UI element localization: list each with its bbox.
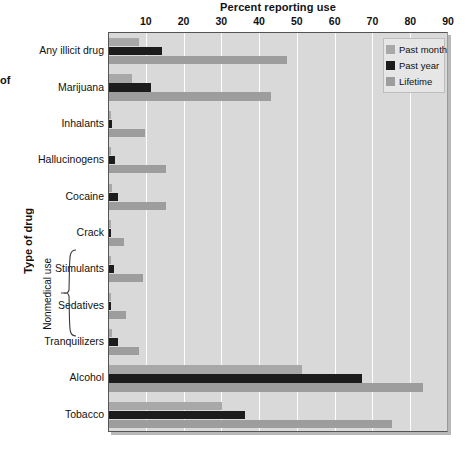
caption-fragment: of	[0, 74, 10, 86]
bar-past-month	[109, 220, 111, 228]
bar-past-year	[109, 374, 362, 382]
bar-past-month	[109, 256, 111, 264]
bar-lifetime	[109, 165, 166, 173]
bar-lifetime	[109, 238, 124, 246]
legend-label: Past month	[399, 44, 447, 55]
y-axis-title: Type of drug	[22, 208, 34, 274]
bar-past-month	[109, 329, 112, 337]
legend-label: Past year	[399, 60, 439, 71]
y-axis-label-tobacco: Tobacco	[0, 408, 104, 420]
bar-lifetime	[109, 92, 271, 100]
gridline	[372, 33, 373, 431]
x-tick-label: 80	[404, 15, 416, 27]
group-bracket	[58, 248, 80, 338]
bar-past-year	[109, 265, 114, 273]
chart-title: Percent reporting use	[108, 1, 448, 13]
x-tick-label: 60	[329, 15, 341, 27]
legend-item-past-year[interactable]: Past year	[386, 57, 444, 73]
bar-past-month	[109, 74, 132, 82]
bar-lifetime	[109, 129, 145, 137]
legend-swatch-icon	[386, 61, 395, 70]
bar-past-year	[109, 47, 162, 55]
y-axis-label-marijuana: Marijuana	[0, 81, 104, 93]
bar-past-year	[109, 83, 151, 91]
bar-lifetime	[109, 202, 166, 210]
legend-swatch-icon	[386, 77, 395, 86]
legend-item-past-month[interactable]: Past month	[386, 41, 444, 57]
y-axis-label-inhalants: Inhalants	[0, 117, 104, 129]
legend-label: Lifetime	[399, 76, 432, 87]
x-tick-label: 70	[367, 15, 379, 27]
bar-lifetime	[109, 420, 392, 428]
x-tick-label: 30	[215, 15, 227, 27]
bar-past-year	[109, 229, 111, 237]
y-axis-label-crack: Crack	[0, 226, 104, 238]
x-tick-label: 20	[178, 15, 190, 27]
x-tick-label: 40	[253, 15, 265, 27]
bar-past-year	[109, 338, 118, 346]
bar-lifetime	[109, 383, 423, 391]
bar-past-month	[109, 402, 222, 410]
gridline	[335, 33, 336, 431]
legend-item-lifetime[interactable]: Lifetime	[386, 73, 444, 89]
y-axis-label-cocaine: Cocaine	[0, 190, 104, 202]
bar-past-month	[109, 38, 139, 46]
bar-past-year	[109, 411, 245, 419]
bar-past-month	[109, 365, 302, 373]
y-axis-label-tranquilizers: Tranquilizers	[0, 335, 104, 347]
bar-lifetime	[109, 274, 143, 282]
legend-swatch-icon	[386, 45, 395, 54]
bar-past-month	[109, 293, 111, 301]
bar-past-month	[109, 111, 111, 119]
bar-past-year	[109, 156, 115, 164]
bar-past-year	[109, 120, 112, 128]
bar-lifetime	[109, 56, 287, 64]
bar-past-year	[109, 302, 111, 310]
x-tick-label: 90	[442, 15, 454, 27]
x-tick-label: 50	[291, 15, 303, 27]
legend: Past monthPast yearLifetime	[383, 38, 445, 93]
y-axis-label-hallucinogens: Hallucinogens	[0, 153, 104, 165]
y-axis-label-alcohol: Alcohol	[0, 371, 104, 383]
bar-past-month	[109, 147, 111, 155]
bar-past-year	[109, 193, 118, 201]
x-axis-tick-labels: 102030405060708090	[0, 15, 470, 29]
group-label-nonmedical-use: Nonmedical use	[42, 258, 53, 330]
figure-drug-use-chart: Percent reporting use 102030405060708090…	[0, 0, 470, 449]
y-axis-label-any-illicit-drug: Any illicit drug	[0, 44, 104, 56]
bar-lifetime	[109, 347, 139, 355]
bar-past-month	[109, 184, 112, 192]
bar-lifetime	[109, 311, 126, 319]
x-tick-label: 10	[140, 15, 152, 27]
